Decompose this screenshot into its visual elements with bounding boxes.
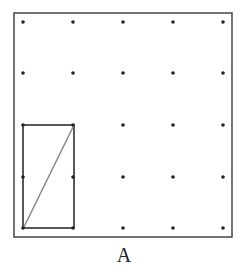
figure-label: A [0,244,240,267]
grid-dot [171,123,175,127]
grid-dot [71,71,75,75]
grid-dot [171,71,175,75]
grid-dot [221,175,225,179]
grid-dot [71,20,75,24]
grid-dot [21,226,25,230]
grid-dot [221,71,225,75]
grid-dot [21,123,25,127]
geoboard-figure [0,0,240,276]
grid-dot [171,175,175,179]
grid-dot [221,226,225,230]
grid-dot [171,226,175,230]
grid-dot [221,20,225,24]
grid-dot [21,71,25,75]
grid-dot [221,123,225,127]
grid-dot [71,226,75,230]
grid-dot [121,71,125,75]
grid-dot [121,226,125,230]
diagonal-line [23,125,74,229]
grid-dot [121,123,125,127]
grid-dot [71,175,75,179]
grid-dot [121,175,125,179]
grid-dot [21,175,25,179]
grid-dot [21,20,25,24]
grid-dot [171,20,175,24]
grid-dot [71,123,75,127]
grid-dot [121,20,125,24]
